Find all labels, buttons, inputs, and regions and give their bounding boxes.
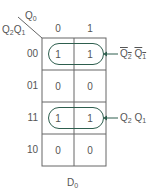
row-label: 00: [14, 48, 38, 59]
map-title: D0: [67, 177, 78, 192]
kmap-cell: 0: [74, 134, 106, 166]
group-loop-row-11: [48, 107, 104, 129]
group-term-label-1: Q2 Q1: [120, 48, 146, 63]
group-term-label-2: Q2 Q1: [120, 112, 146, 127]
kmap-cell: 0: [74, 70, 106, 102]
kmap-cell: 0: [42, 134, 74, 166]
row-label: 11: [14, 112, 38, 123]
row-label: 01: [14, 80, 38, 91]
column-label: 0: [42, 23, 74, 34]
kmap-cell: 0: [42, 70, 74, 102]
column-label: 1: [74, 23, 106, 34]
row-label: 10: [14, 144, 38, 155]
group-loop-row-00: [48, 43, 104, 65]
